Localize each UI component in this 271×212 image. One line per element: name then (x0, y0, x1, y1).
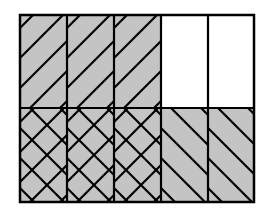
grid-cell-r0-c4 (208, 15, 254, 108)
fraction-grid-diagram (0, 0, 271, 212)
grid-cell-r0-c3 (161, 15, 208, 108)
